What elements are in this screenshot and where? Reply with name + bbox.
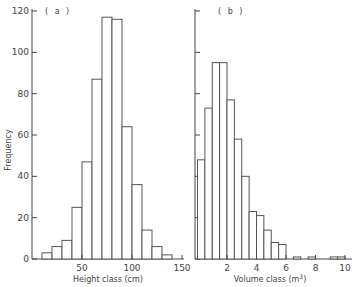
x-tick-label: 8 (313, 263, 319, 273)
histogram-bar (62, 240, 72, 259)
y-axis-label: Frequency (4, 129, 13, 171)
histogram-bar (82, 162, 92, 259)
x-tick-label: 4 (254, 263, 260, 273)
x-tick-label: 100 (123, 263, 140, 273)
x-axis-label-b: Volume class (m3) (234, 273, 307, 284)
histogram-bar (249, 211, 256, 259)
histogram-bar (279, 245, 286, 259)
histogram-bar (220, 63, 227, 259)
histogram-bar (112, 19, 122, 259)
histogram-bar (227, 100, 234, 259)
histogram-bar (242, 176, 249, 259)
y-tick-label: 120 (12, 6, 29, 16)
histogram-bar (264, 230, 271, 259)
y-tick-label: 20 (18, 213, 30, 223)
histogram-bar (102, 17, 112, 259)
panel-b-label: ( b ) (218, 7, 244, 16)
y-tick-label: 100 (12, 47, 29, 57)
histogram-bar (142, 230, 152, 259)
histogram-bar (293, 257, 300, 259)
histogram-bar (338, 257, 345, 259)
x-tick-label: 6 (283, 263, 289, 273)
histogram-bar (205, 108, 212, 259)
histogram-bar (330, 257, 337, 259)
histogram-bar (122, 127, 132, 259)
x-axis-label-a: Height class (cm) (73, 275, 143, 284)
histogram-bar (198, 160, 205, 259)
histogram-bar (72, 207, 82, 259)
histogram-bar (257, 216, 264, 259)
histogram-bar (132, 185, 142, 259)
y-tick-label: 80 (18, 89, 30, 99)
panel-b-volume-histogram: 246810 (195, 9, 352, 273)
panel-a-height-histogram: 02040608010012050100150 (12, 6, 191, 273)
histogram-bar (234, 139, 241, 259)
histogram-bar (152, 247, 162, 259)
histogram-bar (52, 247, 62, 259)
y-tick-label: 0 (23, 254, 29, 264)
x-tick-label: 2 (224, 263, 230, 273)
x-tick-label: 150 (173, 263, 190, 273)
histogram-bar (162, 255, 172, 259)
x-tick-label: 50 (76, 263, 88, 273)
panel-a-label: ( a ) (45, 7, 71, 16)
histogram-bar (92, 79, 102, 259)
histogram-bar (212, 63, 219, 259)
histogram-bar (42, 253, 52, 259)
histogram-figure: 02040608010012050100150 246810 ( a ) ( b… (0, 0, 356, 287)
histogram-bar (308, 257, 315, 259)
y-tick-label: 40 (18, 171, 30, 181)
histogram-bar (271, 242, 278, 259)
y-tick-label: 60 (18, 130, 30, 140)
x-tick-label: 10 (339, 263, 351, 273)
